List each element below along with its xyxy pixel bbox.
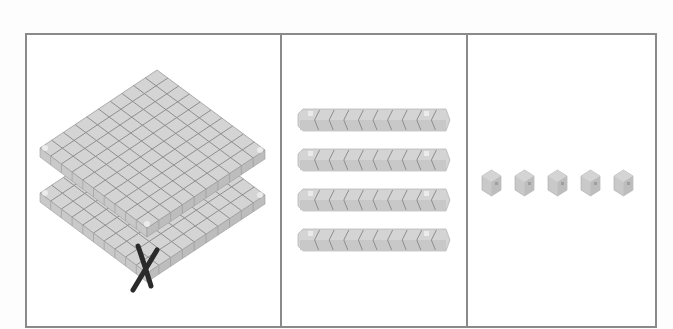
ten-rod bbox=[298, 109, 450, 131]
ten-rod bbox=[298, 189, 450, 211]
unit-cube bbox=[548, 170, 567, 196]
blocks-drawing bbox=[0, 0, 673, 329]
unit-cube bbox=[614, 170, 633, 196]
unit-cube bbox=[581, 170, 600, 196]
unit-cube bbox=[515, 170, 534, 196]
ten-rods bbox=[298, 109, 450, 251]
unit-cube bbox=[482, 170, 501, 196]
unit-cubes bbox=[482, 170, 633, 196]
ten-rod bbox=[298, 229, 450, 251]
base-ten-blocks-figure: Hundreds Tens Ones bbox=[0, 0, 673, 329]
hundred-flats bbox=[40, 70, 265, 290]
ten-rod bbox=[298, 149, 450, 171]
